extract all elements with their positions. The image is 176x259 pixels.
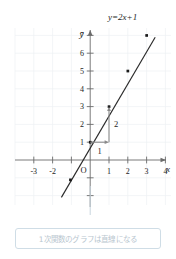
x-tick-label: 3: [145, 167, 149, 176]
equation-label: y=2x+1: [108, 12, 137, 22]
y-axis: [88, 30, 93, 207]
y-axis-label: y: [79, 29, 84, 39]
y-tick-label: 2: [80, 120, 84, 129]
x-tick-label: 1: [107, 167, 111, 176]
figure-page: -3 -2 1 2 3 4 1 2 3 4 5 6 7 O x y: [0, 0, 176, 259]
x-tick-label: -3: [30, 167, 37, 176]
x-tick-label: 2: [126, 167, 130, 176]
y-tick-label: 3: [80, 102, 84, 111]
slope-run-label: 1: [97, 146, 101, 156]
graph-figure: -3 -2 1 2 3 4 1 2 3 4 5 6 7 O x y: [0, 0, 176, 215]
caption-box: 1次関数のグラフは直線になる: [15, 228, 161, 249]
y-tick-label: 6: [80, 49, 84, 58]
y-tick-label: 1: [80, 138, 84, 147]
y-tick-label: 4: [80, 85, 84, 94]
y-tick-label: 5: [80, 67, 84, 76]
caption-text: 1次関数のグラフは直線になる: [39, 233, 138, 244]
coordinate-plane: -3 -2 1 2 3 4 1 2 3 4 5 6 7 O x y: [0, 0, 176, 215]
origin-label: O: [80, 165, 86, 175]
y-tick-labels: 1 2 3 4 5 6 7: [80, 31, 84, 147]
x-tick-labels: -3 -2 1 2 3 4: [30, 167, 167, 176]
x-tick-label: -2: [49, 167, 56, 176]
x-axis-label: x: [165, 164, 170, 174]
slope-rise-label: 2: [114, 119, 118, 129]
